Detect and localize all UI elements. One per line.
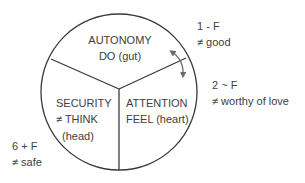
annotation-1-type: 1 - F <box>197 20 220 32</box>
spoke-right <box>119 58 186 89</box>
annotation-2-type: 2 ~ F <box>212 79 238 91</box>
annotation-6-belief: ≠ safe <box>12 156 42 168</box>
annotation-1-belief: ≠ good <box>197 36 231 48</box>
triad-diagram: AUTONOMY DO (gut) SECURITY ≠ THINK (head… <box>0 0 305 183</box>
spoke-left <box>51 59 119 89</box>
feel-heart-label: FEEL (heart) <box>126 113 189 125</box>
autonomy-label: AUTONOMY <box>88 34 152 46</box>
do-gut-label: DO (gut) <box>99 50 141 62</box>
annotation-6-type: 6 + F <box>12 140 38 152</box>
attention-label: ATTENTION <box>126 97 188 109</box>
head-label: (head) <box>62 130 94 142</box>
not-think-label: ≠ THINK <box>56 113 99 125</box>
annotation-2-belief: ≠ worthy of love <box>212 95 289 107</box>
security-label: SECURITY <box>56 97 112 109</box>
